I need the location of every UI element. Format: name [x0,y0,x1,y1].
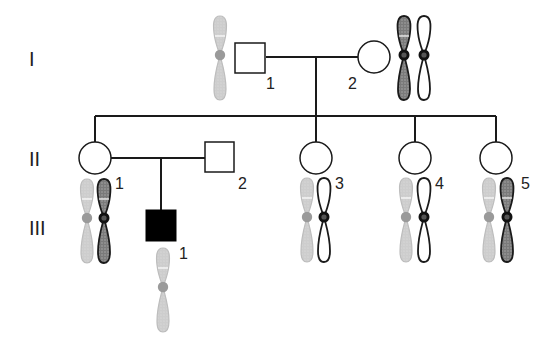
chromosome-dark-icon [501,178,514,262]
female-unaffected-symbol [358,41,390,73]
chromosome-dark-icon [98,179,111,263]
generation-labels: I II III [29,48,46,239]
female-unaffected-symbol [300,142,332,174]
individual-II-4: 4 [399,142,444,262]
male-unaffected-symbol [205,142,234,172]
chromosome-gray-icon [81,179,94,263]
individual-number: 1 [266,75,275,92]
individual-number: 2 [238,175,247,192]
chromosome-white-icon [418,16,431,100]
male-affected-symbol [146,210,176,241]
individual-I-1: 1 [214,16,275,100]
chromosome-gray-icon [301,178,314,262]
chromosome-gray-icon [157,248,170,332]
individual-II-5: 5 [480,142,530,262]
individual-II-2: 2 [205,142,247,192]
individual-number: 3 [335,175,344,192]
female-unaffected-symbol [399,142,431,174]
chromosome-gray-icon [400,178,413,262]
chromosome-white-icon [418,178,431,262]
individual-III-1: 1 [146,210,188,332]
male-unaffected-symbol [235,43,265,73]
individual-I-2: 2 [348,16,430,100]
chromosome-dark-icon [398,16,411,100]
generation-label-III: III [29,217,46,239]
pedigree-diagram: I II III 1 2 1 2 [0,0,555,349]
chromosome-white-icon [318,178,331,262]
female-unaffected-symbol [480,142,512,174]
individual-number: 4 [435,175,444,192]
individual-number: 5 [521,175,530,192]
generation-label-II: II [29,148,40,170]
chromosome-gray-icon [483,178,496,262]
individual-number: 2 [348,75,357,92]
individual-II-3: 3 [300,142,344,262]
individual-number: 1 [115,175,124,192]
chromosome-gray-icon [214,16,227,100]
female-unaffected-symbol [79,142,111,174]
individual-number: 1 [179,245,188,262]
generation-label-I: I [29,48,35,70]
individual-II-1: 1 [79,142,124,263]
